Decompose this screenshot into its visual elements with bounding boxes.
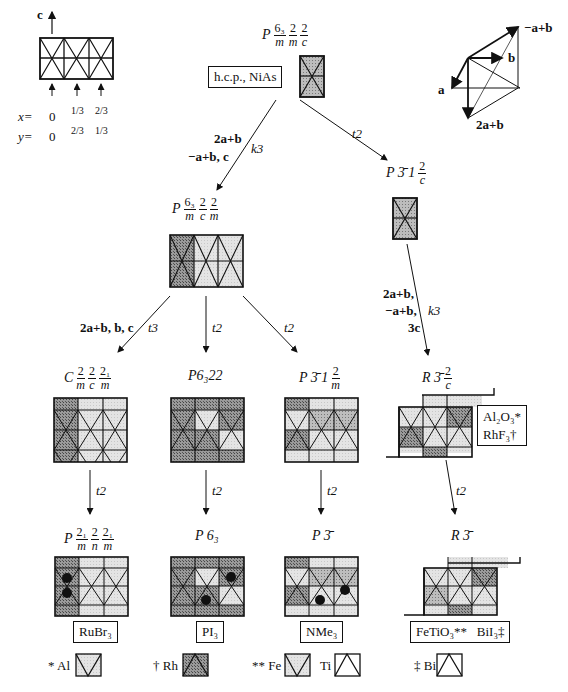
edge-basis-label: 3c (408, 321, 420, 334)
basis-vector-figure (452, 27, 520, 118)
axis-c-label: c (37, 8, 43, 21)
legend-item-fe: ** Fe (252, 658, 281, 674)
p3-tag-box: NMe₃ (300, 621, 343, 643)
vector-a-label: a (438, 83, 445, 96)
space-group-r3c: R 3̄ 2c (422, 365, 452, 391)
space-group-r3: R 3̄ (451, 528, 470, 544)
y-value-0: 0 (49, 130, 56, 143)
p63mcm-cell (170, 235, 243, 287)
space-group-p63mcm: P 6₃m 2c 2m (172, 196, 218, 222)
space-group-root: P 6₃m 2m 2c (262, 22, 308, 48)
space-group-cmcm: C 2m 2c 2₁m (64, 365, 111, 391)
reference-cell (40, 12, 113, 96)
y-label: y= (18, 130, 33, 143)
edge-index-label: t2 (327, 484, 337, 497)
r3c-tag-box: Al₂O₃* RhF₃† (477, 405, 527, 446)
legend-item-rh: † Rh (153, 658, 178, 674)
p31m-cell (285, 398, 358, 462)
root-tag-box: h.c.p., NiAs (208, 66, 282, 88)
edge-basis-label: 2a+b (214, 132, 242, 145)
space-group-p3: P 3̄ (312, 528, 331, 544)
space-group-p6322: P6₃22 (188, 368, 222, 384)
edge-index-label: k3 (251, 142, 263, 155)
pmnm-tag-box: RuBr₃ (73, 621, 118, 643)
r3-cell (404, 557, 520, 615)
p31c-cell (393, 198, 417, 239)
edge-basis-label: −a+b, (385, 304, 417, 317)
space-group-pmnm: P 2₁m 2n 2₁m (64, 526, 114, 552)
legend-item-al: * Al (48, 658, 70, 674)
vector-2a-plus-b-label: 2a+b (476, 118, 504, 131)
edge-basis-label: 2a+b, (383, 287, 414, 300)
y-value-2: 1/3 (95, 126, 108, 136)
x-label: x= (18, 110, 33, 123)
x-value-2: 2/3 (95, 106, 108, 116)
pmnm-cell (55, 557, 128, 616)
root-cell (300, 56, 324, 97)
edge-index-label: t2 (284, 321, 294, 334)
space-group-p31m: P 3̄ 1 2m (299, 365, 340, 391)
diagram-canvas (0, 0, 568, 692)
vector-minus-a-plus-b-label: −a+b (524, 21, 553, 34)
edge-basis-label: 2a+b, b, c (80, 321, 134, 334)
x-value-0: 0 (49, 110, 56, 123)
r3-tag-box: FeTiO₃** BiI₃‡ (410, 621, 510, 643)
legend-item-bi: ‡ Bi (414, 658, 436, 674)
p63-cell (171, 557, 244, 616)
edge-index-label: t2 (352, 127, 362, 140)
edge-index-label: t3 (148, 321, 158, 334)
edge-index-label: t2 (456, 484, 466, 497)
cmcm-cell (54, 398, 127, 462)
legend-item-ti: Ti (320, 658, 331, 674)
edge-basis-label: −a+b, c (188, 150, 229, 163)
p6322-cell (171, 398, 244, 462)
x-value-1: 1/3 (71, 106, 84, 116)
p63-tag-box: PI₃ (196, 621, 224, 643)
edge-index-label: t2 (212, 484, 222, 497)
vector-b-label: b (508, 51, 515, 64)
space-group-p63: P 6₃ (195, 528, 219, 544)
edge-index-label: k3 (428, 304, 440, 317)
edge-index-label: t2 (212, 321, 222, 334)
p3-cell (285, 557, 358, 616)
edge-index-label: t2 (96, 484, 106, 497)
space-group-p31c: P 3̄ 1 2c (386, 160, 426, 186)
y-value-1: 2/3 (71, 126, 84, 136)
